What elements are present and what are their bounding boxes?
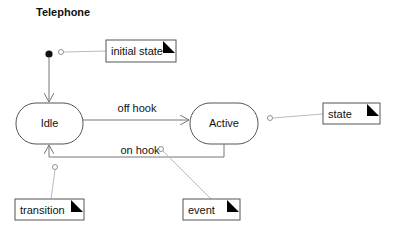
note-event[interactable]: event: [183, 199, 240, 220]
initial-state-node[interactable]: [45, 50, 52, 57]
connector-initial-state: [64, 51, 106, 52]
svg-text:transition: transition: [20, 204, 65, 216]
transition-on-hook-label: on hook: [120, 144, 160, 156]
svg-text:event: event: [188, 204, 215, 216]
svg-text:state: state: [328, 108, 352, 120]
note-initial-state[interactable]: initial state: [106, 40, 176, 62]
anchor-event-icon: [159, 147, 164, 152]
connector-state: [273, 114, 323, 118]
state-active[interactable]: Active: [190, 103, 258, 144]
state-idle-label: Idle: [41, 117, 59, 129]
state-active-label: Active: [209, 117, 239, 129]
anchor-state-icon: [268, 116, 273, 121]
anchor-transition-icon: [53, 165, 58, 170]
note-state[interactable]: state: [323, 103, 380, 124]
note-transition[interactable]: transition: [15, 199, 84, 220]
connector-transition: [51, 170, 55, 199]
svg-text:initial state: initial state: [111, 45, 163, 57]
anchor-initial-state-icon: [59, 50, 64, 55]
connector-event: [163, 151, 211, 199]
state-idle[interactable]: Idle: [16, 103, 83, 144]
transition-off-hook-label: off hook: [118, 102, 157, 114]
